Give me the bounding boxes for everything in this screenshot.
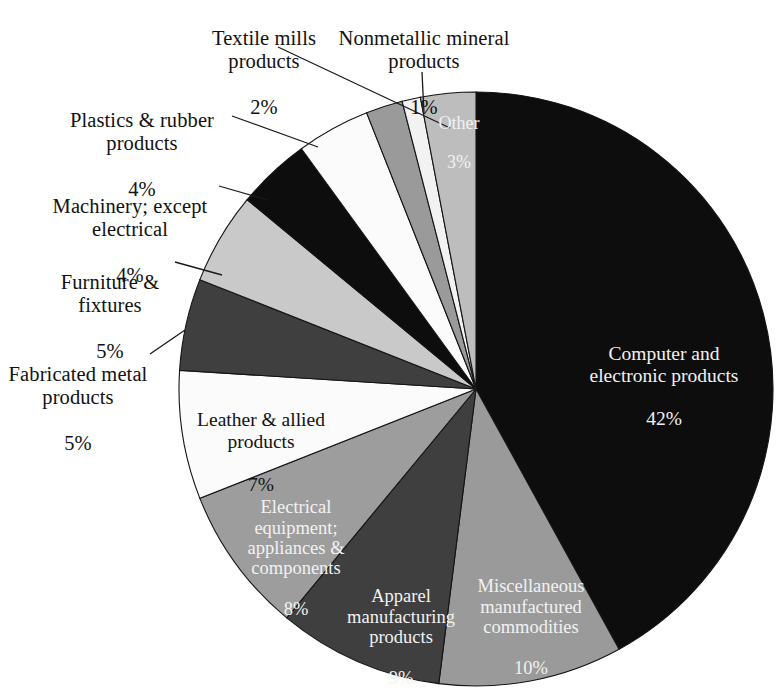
pie-chart-figure: Textile mills products 2% Nonmetallic mi… — [0, 0, 779, 695]
pie-label-computer: Computer and electronic products 42% — [566, 322, 762, 451]
pie-label-furniture-name: Furniture & fixtures — [44, 271, 176, 317]
pie-label-fabricated-percent: 5% — [0, 432, 156, 455]
pie-label-fabricated-name: Fabricated metal products — [0, 363, 156, 409]
pie-label-machinery-name: Machinery; except electrical — [40, 195, 220, 241]
pie-label-computer-name: Computer and electronic products — [566, 343, 762, 386]
pie-label-other: Other 3% — [413, 94, 505, 193]
pie-label-computer-percent: 42% — [566, 408, 762, 429]
pie-label-miscellaneous-name: Miscellaneous manufactured commodities — [458, 576, 604, 637]
pie-label-leather-percent: 7% — [178, 474, 344, 495]
pie-label-fabricated: Fabricated metal products 5% — [0, 340, 156, 478]
pie-label-apparel-percent: 9% — [340, 668, 462, 688]
pie-label-other-percent: 3% — [413, 153, 505, 173]
pie-label-apparel-name: Apparel manufacturing products — [340, 586, 462, 647]
pie-label-leather: Leather & allied products 7% — [178, 388, 344, 517]
pie-label-miscellaneous: Miscellaneous manufactured commodities 1… — [458, 556, 604, 695]
pie-label-apparel: Apparel manufacturing products 9% — [340, 566, 462, 695]
pie-label-leather-name: Leather & allied products — [178, 409, 344, 452]
pie-label-other-name: Other — [413, 114, 505, 134]
pie-label-plastics-name: Plastics & rubber products — [52, 109, 232, 155]
pie-label-miscellaneous-percent: 10% — [458, 658, 604, 678]
pie-label-electrical-percent: 8% — [238, 599, 354, 619]
pie-label-nonmetallic-name: Nonmetallic mineral products — [320, 27, 528, 73]
